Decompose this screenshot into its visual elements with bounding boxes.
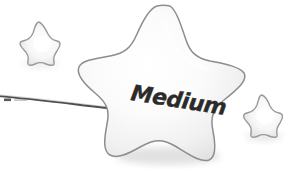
main-star [78, 5, 245, 160]
illustration-canvas: Medium [0, 0, 298, 169]
star-illustration-graphic: Medium [0, 0, 298, 169]
small-star-lower-right [244, 95, 283, 137]
small-star-upper-left [20, 22, 60, 65]
